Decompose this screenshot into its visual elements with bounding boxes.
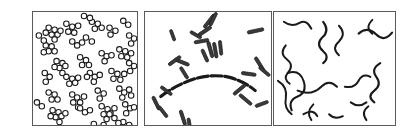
- coccus-cell: [128, 93, 133, 99]
- coccus-cell: [52, 64, 57, 70]
- coccus-cell: [109, 68, 114, 74]
- coccus-cell: [120, 95, 125, 101]
- cocci-panel: [32, 11, 138, 126]
- coccus-cell: [112, 115, 117, 121]
- coccus-cell: [86, 62, 91, 68]
- coccus-cell: [39, 104, 44, 110]
- coccus-cell: [64, 21, 69, 27]
- coccus-cell: [126, 87, 131, 93]
- coccus-cell: [118, 77, 123, 83]
- cocci-cluster-group: [34, 13, 137, 125]
- spirillum-filament: [345, 76, 371, 88]
- coccus-cell: [116, 120, 121, 125]
- spirillum-filament: [304, 112, 318, 116]
- coccus-cell: [83, 35, 88, 41]
- spirillum-filament: [283, 45, 291, 83]
- coccus-cell: [125, 22, 130, 28]
- coccus-cell: [75, 75, 80, 81]
- bacilli-canvas: [145, 12, 271, 125]
- coccus-cell: [128, 41, 133, 47]
- coccus-cell: [55, 97, 60, 103]
- spirillum-filament: [370, 63, 380, 102]
- coccus-cell: [113, 28, 118, 34]
- coccus-cell: [111, 76, 116, 82]
- spirilla-canvas: [274, 12, 395, 125]
- coccus-cell: [49, 97, 54, 103]
- coccus-cell: [87, 15, 92, 21]
- spirillum-filament: [319, 22, 327, 63]
- coccus-cell: [112, 106, 117, 112]
- coccus-cell: [117, 86, 122, 92]
- coccus-cell: [95, 88, 100, 94]
- coccus-cell: [77, 106, 82, 112]
- spirillum-filament: [284, 22, 312, 29]
- spirilla-panel: [273, 11, 396, 126]
- coccus-cell: [41, 38, 46, 44]
- coccus-cell: [128, 51, 133, 57]
- coccus-cell: [50, 108, 55, 114]
- coccus-cell: [109, 52, 114, 58]
- coccus-cell: [131, 63, 136, 69]
- coccus-cell: [57, 119, 62, 125]
- spirillum-filament: [351, 102, 367, 105]
- coccus-cell: [81, 94, 86, 100]
- spirillum-filament: [329, 114, 343, 118]
- bacillus-rod: [247, 28, 264, 35]
- bacteria-morphology-figure: [0, 0, 403, 136]
- coccus-cell: [115, 71, 120, 77]
- coccus-cell: [75, 23, 80, 29]
- coccus-cell: [42, 70, 47, 76]
- coccus-cell: [107, 25, 112, 31]
- coccus-cell: [108, 32, 113, 38]
- coccus-cell: [127, 68, 132, 74]
- spirillum-filament: [364, 106, 368, 120]
- coccus-cell: [69, 39, 74, 45]
- bacillus-rod: [179, 110, 187, 125]
- coccus-cell: [119, 53, 124, 59]
- coccus-cell: [122, 102, 127, 108]
- coccus-cell: [71, 30, 76, 36]
- coccus-cell: [41, 50, 46, 56]
- bacilli-rod-group: [151, 12, 270, 125]
- coccus-cell: [77, 54, 82, 60]
- bacillus-rod: [169, 29, 176, 41]
- coccus-cell: [99, 25, 104, 31]
- coccus-cell: [87, 108, 92, 114]
- coccus-cell: [58, 28, 63, 34]
- coccus-cell: [89, 39, 94, 45]
- coccus-cell: [64, 74, 69, 80]
- bacillus-rod: [258, 66, 271, 77]
- coccus-cell: [54, 58, 59, 64]
- bacillus-rod: [179, 66, 189, 79]
- coccus-cell: [67, 81, 72, 87]
- spirilla-filament-group: [278, 20, 392, 120]
- coccus-cell: [47, 74, 52, 80]
- bacillus-rod: [187, 118, 192, 125]
- coccus-cell: [81, 13, 86, 19]
- coccus-cell: [99, 104, 104, 110]
- coccus-cell: [79, 62, 84, 68]
- bacillus-rod: [233, 83, 247, 96]
- coccus-cell: [117, 47, 122, 53]
- coccus-cell: [126, 122, 131, 125]
- coccus-cell: [43, 79, 48, 85]
- coccus-cell: [34, 100, 39, 106]
- coccus-cell: [43, 30, 48, 36]
- coccus-cell: [66, 29, 71, 35]
- coccus-cell: [91, 121, 96, 125]
- bacillus-rod: [255, 100, 269, 108]
- cocci-canvas: [33, 12, 137, 125]
- coccus-cell: [46, 90, 51, 96]
- spirillum-filament: [335, 26, 343, 55]
- coccus-cell: [70, 100, 75, 106]
- coccus-cell: [122, 49, 127, 55]
- coccus-cell: [121, 18, 126, 24]
- coccus-cell: [101, 122, 106, 125]
- coccus-cell: [48, 113, 53, 119]
- bacillus-rod: [218, 40, 223, 55]
- coccus-cell: [69, 24, 74, 30]
- bacillus-rod: [158, 105, 169, 118]
- coccus-cell: [79, 40, 84, 46]
- coccus-cell: [131, 105, 136, 111]
- coccus-cell: [91, 79, 96, 85]
